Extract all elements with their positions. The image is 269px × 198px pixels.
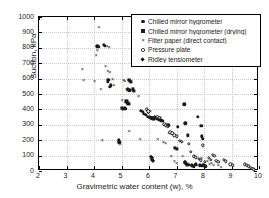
data-point [121, 107, 124, 110]
x-axis-tick [67, 17, 68, 20]
legend-item[interactable]: Chilled mirror hygrometer [132, 17, 260, 26]
x-tick-label: 2 [36, 172, 40, 179]
x-axis-tick [39, 17, 40, 20]
data-point: × [111, 82, 116, 87]
data-point [132, 89, 135, 92]
y-axis-tick [39, 48, 42, 49]
data-point: × [201, 164, 206, 169]
y-axis-tick [39, 109, 42, 110]
gridline-horizontal [39, 140, 257, 141]
data-point: × [125, 88, 130, 93]
data-point: × [195, 163, 200, 168]
legend-item[interactable]: Pressure plate [132, 45, 260, 54]
data-point: × [107, 70, 112, 75]
y-axis-tick [39, 63, 42, 64]
y-tick-label: 700 [22, 59, 34, 66]
x-axis-tick [259, 166, 260, 169]
x-axis-tick [177, 166, 178, 169]
data-point: × [118, 141, 123, 146]
data-point: × [219, 164, 224, 169]
y-axis-tick [39, 125, 42, 126]
y-axis-tick [39, 156, 42, 157]
x-tick-label: 6 [146, 172, 150, 179]
y-tick-label: 300 [22, 120, 34, 127]
data-point: × [122, 78, 127, 83]
y-axis-tick [254, 109, 257, 110]
x-axis-tick [39, 166, 40, 169]
data-point: × [163, 140, 168, 145]
legend-label: Ridley tensiometer [148, 56, 203, 63]
data-point [130, 80, 133, 83]
y-tick-label: 200 [22, 136, 34, 143]
data-point: × [138, 137, 143, 142]
x-axis-title: Gravimetric water content (w), % [0, 183, 269, 191]
cross-icon: × [138, 36, 148, 45]
data-point: × [174, 160, 179, 165]
data-point: × [100, 137, 105, 142]
legend-item[interactable]: ×Filter paper (direct contact) [132, 36, 260, 45]
x-axis-tick [67, 166, 68, 169]
y-axis-tick [254, 140, 257, 141]
y-axis-tick [254, 125, 257, 126]
gridline-horizontal [39, 94, 257, 95]
y-axis-tick [39, 79, 42, 80]
gridline-horizontal [39, 125, 257, 126]
data-point: × [81, 78, 86, 83]
data-point: × [94, 53, 99, 58]
x-tick-label: 4 [91, 172, 95, 179]
data-point: × [136, 93, 141, 98]
data-point: × [95, 47, 100, 52]
x-axis-tick [149, 166, 150, 169]
legend-item[interactable]: Chilled mirror hygrometer (drying) [132, 26, 260, 35]
data-point [175, 148, 178, 151]
y-tick-label: 400 [22, 105, 34, 112]
x-tick-label: 5 [119, 172, 123, 179]
gridline-vertical [94, 17, 95, 169]
y-tick-label: 900 [22, 28, 34, 35]
data-point: × [120, 97, 125, 102]
legend-label: Pressure plate [148, 46, 191, 53]
open-circle-icon [138, 45, 148, 54]
data-point: × [92, 79, 97, 84]
x-axis-tick [122, 17, 123, 20]
data-point [127, 102, 130, 105]
filled-circle-icon [138, 17, 148, 26]
x-tick-label: 10 [254, 172, 262, 179]
y-axis-tick [254, 79, 257, 80]
y-axis-tick [39, 94, 42, 95]
data-point: × [155, 137, 160, 142]
data-point: × [98, 87, 103, 92]
filled-diamond-icon [138, 55, 148, 64]
x-axis-tick [94, 166, 95, 169]
chart-legend: Chilled mirror hygrometerChilled mirror … [131, 14, 261, 67]
y-axis-tick [254, 94, 257, 95]
x-axis-tick [94, 17, 95, 20]
scatter-chart-figure: Suction, kPa Gravimetric water content (… [0, 0, 269, 198]
y-tick-label: 500 [22, 90, 34, 97]
y-tick-label: 0 [30, 167, 34, 174]
legend-label: Chilled mirror hygrometer [148, 18, 222, 25]
y-tick-label: 100 [22, 151, 34, 158]
data-point: × [96, 25, 101, 30]
legend-item[interactable]: Ridley tensiometer [132, 55, 260, 64]
data-point: × [107, 44, 112, 49]
y-axis-tick [254, 156, 257, 157]
y-axis-tick [39, 32, 42, 33]
y-tick-label: 1000 [18, 13, 34, 20]
legend-label: Chilled mirror hygrometer (drying) [148, 28, 247, 35]
data-point: × [80, 67, 85, 72]
legend-label: Filter paper (direct contact) [148, 37, 227, 44]
x-tick-label: 9 [229, 172, 233, 179]
x-axis-tick [122, 166, 123, 169]
y-tick-label: 800 [22, 43, 34, 50]
gridline-vertical [67, 17, 68, 169]
y-axis-tick [39, 140, 42, 141]
data-point: × [127, 128, 132, 133]
x-tick-label: 7 [174, 172, 178, 179]
x-tick-label: 3 [64, 172, 68, 179]
y-tick-label: 600 [22, 74, 34, 81]
filled-square-icon [138, 27, 148, 36]
x-tick-label: 8 [201, 172, 205, 179]
gridline-horizontal [39, 79, 257, 80]
